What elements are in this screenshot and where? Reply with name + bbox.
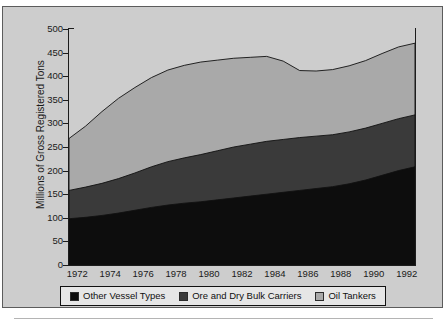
y-axis-tick-label-wrap: 100 xyxy=(25,213,63,223)
legend-item[interactable]: Ore and Dry Bulk Carriers xyxy=(179,291,301,301)
y-axis-tick-label: 300 xyxy=(33,118,63,127)
y-axis-tick-label-wrap: 400 xyxy=(25,71,63,81)
y-axis-tick-label: 450 xyxy=(33,48,63,57)
caption-divider xyxy=(14,318,433,319)
y-axis-title: Millions of Gross Registered Tons xyxy=(35,40,46,230)
x-axis-tick-label: 1992 xyxy=(387,268,427,279)
legend-swatch-other-vessel-types xyxy=(70,292,79,301)
legend-item-label: Other Vessel Types xyxy=(83,291,165,301)
y-axis-tick-label-wrap: 150 xyxy=(25,189,63,199)
chart-panel: Millions of Gross Registered Tons 050100… xyxy=(2,6,443,308)
plot-right-edge-line xyxy=(415,28,416,266)
y-axis-tick-label: 200 xyxy=(33,166,63,175)
x-axis-line xyxy=(68,265,416,266)
legend-swatch-ore-and-dry-bulk-carriers xyxy=(179,292,188,301)
y-axis-tick-label: 250 xyxy=(33,142,63,151)
y-axis-tick-label-wrap: 350 xyxy=(25,95,63,105)
y-axis-tick-label-wrap: 200 xyxy=(25,166,63,176)
y-axis-tick-label-wrap: 450 xyxy=(25,48,63,58)
y-axis-tick-label: 350 xyxy=(33,95,63,104)
legend-item-label: Oil Tankers xyxy=(328,291,375,301)
y-axis-tick-label: 50 xyxy=(33,236,63,245)
caption-text xyxy=(14,321,433,329)
y-axis-tick-label: 400 xyxy=(33,71,63,80)
y-axis-tick-label-wrap: 50 xyxy=(25,236,63,246)
legend-item-label: Ore and Dry Bulk Carriers xyxy=(192,291,301,301)
y-axis-tick-label: 100 xyxy=(33,213,63,222)
y-axis-tick-label: 150 xyxy=(33,189,63,198)
y-axis-tick-label-wrap: 300 xyxy=(25,118,63,128)
chart-figure: Millions of Gross Registered Tons 050100… xyxy=(0,0,447,329)
legend-item[interactable]: Oil Tankers xyxy=(315,291,375,301)
legend-item[interactable]: Other Vessel Types xyxy=(70,291,165,301)
stacked-area-plot xyxy=(69,29,415,265)
plot-area xyxy=(69,29,415,265)
y-axis-tick-label-wrap: 500 xyxy=(25,24,63,34)
chart-legend: Other Vessel TypesOre and Dry Bulk Carri… xyxy=(60,286,386,306)
y-axis-tick-label: 500 xyxy=(33,24,63,33)
y-axis-tick-label-wrap: 250 xyxy=(25,142,63,152)
legend-swatch-oil-tankers xyxy=(315,292,324,301)
